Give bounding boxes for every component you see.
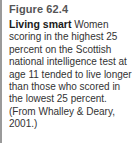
caption-lead: Living smart bbox=[9, 18, 71, 30]
figure-label: Figure 62.4 bbox=[9, 3, 136, 16]
caption-text: Women scoring in the highest 25 percent … bbox=[9, 19, 132, 129]
caption-body: Living smart Women scoring in the highes… bbox=[9, 18, 136, 131]
figure-caption: Figure 62.4 Living smart Women scoring i… bbox=[0, 0, 136, 143]
